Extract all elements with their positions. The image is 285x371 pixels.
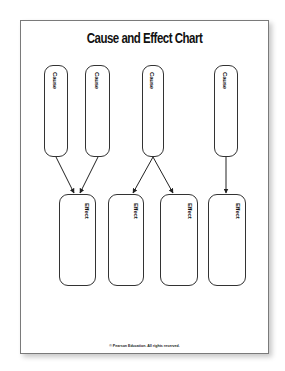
worksheet-page: Cause and Effect Chart Cause Cause Cause… [20,20,269,354]
arrow-cause2-effect1 [80,157,98,193]
arrow-cause3-effect2 [133,157,153,193]
arrow-cause3-effect3 [153,157,173,193]
copyright-footer: © Pearson Education. All rights reserved… [21,344,268,348]
connector-arrows [21,21,270,355]
arrow-cause1-effect1 [56,157,74,193]
